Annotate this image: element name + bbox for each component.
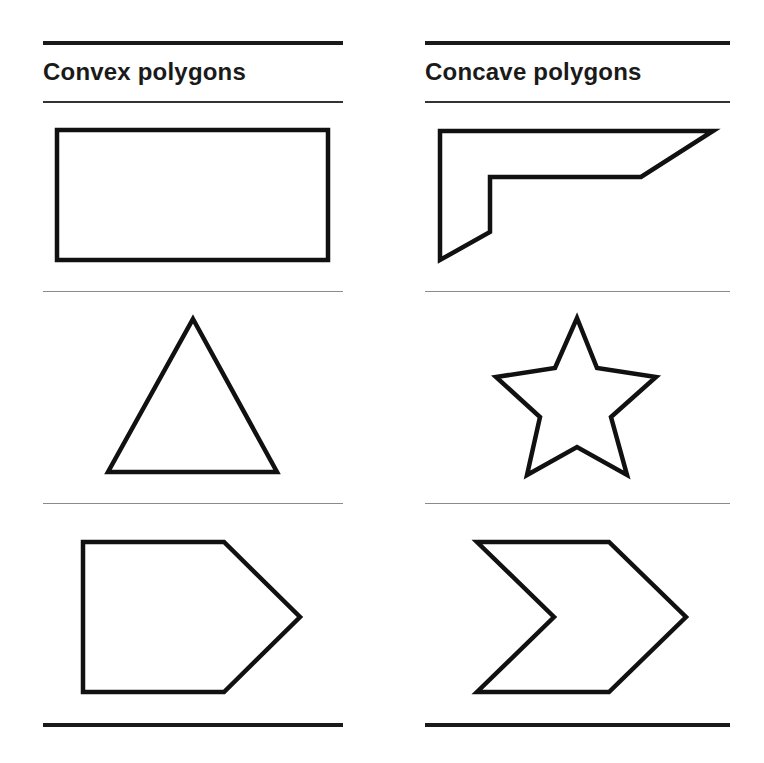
row-separator [425, 503, 730, 504]
concave-title: Concave polygons [425, 58, 642, 86]
row-separator [43, 503, 343, 504]
convex-column: Convex polygons [43, 0, 343, 763]
bottom-rule [425, 723, 730, 727]
header-rule [425, 101, 730, 103]
row-separator [43, 291, 343, 292]
row-separator [425, 291, 730, 292]
bottom-rule [43, 723, 343, 727]
top-rule [43, 41, 343, 45]
top-rule [425, 41, 730, 45]
concave-column: Concave polygons [425, 0, 730, 763]
header-rule [43, 101, 343, 103]
convex-title: Convex polygons [43, 58, 246, 86]
